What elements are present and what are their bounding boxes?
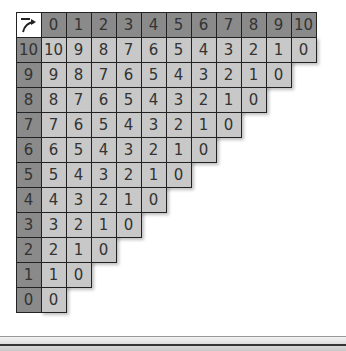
table-cell: 1 [41, 262, 67, 288]
table-cell: 0 [266, 62, 292, 88]
table-row: 10109876543210 [16, 37, 316, 62]
table-cell: 8 [41, 87, 67, 113]
table-cell: 0 [116, 212, 142, 238]
table-row: 00 [16, 287, 316, 312]
table-cell: 0 [166, 162, 192, 188]
table-cell: 2 [191, 87, 217, 113]
row-header: 10 [16, 37, 42, 63]
column-header: 3 [116, 12, 142, 38]
table-cell: 0 [66, 262, 92, 288]
column-header: 9 [266, 12, 292, 38]
table-row: 8876543210 [16, 87, 316, 112]
table-row: 33210 [16, 212, 316, 237]
table-cell: 3 [141, 112, 167, 138]
table-cell: 7 [66, 87, 92, 113]
table-cell: 1 [191, 112, 217, 138]
table-cell: 2 [166, 112, 192, 138]
table-cell: 0 [141, 187, 167, 213]
table-cell: 5 [166, 37, 192, 63]
table-cell: 0 [191, 137, 217, 163]
table-row: 2210 [16, 237, 316, 262]
table-cell: 4 [41, 187, 67, 213]
column-header: 1 [66, 12, 92, 38]
table-row: 776543210 [16, 112, 316, 137]
table-cell: 4 [141, 87, 167, 113]
row-header: 9 [16, 62, 42, 88]
table-cell: 0 [291, 37, 317, 63]
table-cell: 10 [41, 37, 67, 63]
column-header: 0 [41, 12, 67, 38]
row-header: 1 [16, 262, 42, 288]
table-cell: 6 [116, 62, 142, 88]
column-header: 2 [91, 12, 117, 38]
table-cell: 5 [141, 62, 167, 88]
column-header: 8 [241, 12, 267, 38]
row-header: 6 [16, 137, 42, 163]
table-cell: 3 [216, 37, 242, 63]
table-cell: 1 [241, 62, 267, 88]
table-cell: 6 [41, 137, 67, 163]
table-cell: 8 [91, 37, 117, 63]
row-header: 3 [16, 212, 42, 238]
column-header: 5 [166, 12, 192, 38]
table-cell: 0 [91, 237, 117, 263]
table-cell: 4 [66, 162, 92, 188]
table-cell: 9 [66, 37, 92, 63]
table-cell: 1 [166, 137, 192, 163]
table-cell: 4 [91, 137, 117, 163]
table-row: 110 [16, 262, 316, 287]
table-row: 443210 [16, 187, 316, 212]
table-cell: 2 [91, 187, 117, 213]
table-cell: 5 [116, 87, 142, 113]
row-header: 2 [16, 237, 42, 263]
table-cell: 6 [91, 87, 117, 113]
table-cell: 1 [141, 162, 167, 188]
table-cell: 4 [116, 112, 142, 138]
table-cell: 2 [66, 212, 92, 238]
table-cell: 2 [41, 237, 67, 263]
table-cell: 7 [41, 112, 67, 138]
table-cell: 2 [216, 62, 242, 88]
table-cell: 3 [166, 87, 192, 113]
column-header: 7 [216, 12, 242, 38]
table-cell: 3 [116, 137, 142, 163]
table-cell: 0 [41, 287, 67, 313]
table-cell: 8 [66, 62, 92, 88]
subtraction-table: 0123456789101010987654321099876543210887… [16, 12, 316, 312]
table-cell: 3 [191, 62, 217, 88]
table-cell: 3 [91, 162, 117, 188]
row-header: 7 [16, 112, 42, 138]
table-cell: 5 [41, 162, 67, 188]
header-row: 012345678910 [16, 12, 316, 37]
table-cell: 1 [266, 37, 292, 63]
table-cell: 7 [116, 37, 142, 63]
table-cell: 1 [216, 87, 242, 113]
table-cell: 5 [91, 112, 117, 138]
table-cell: 1 [91, 212, 117, 238]
table-cell: 3 [41, 212, 67, 238]
table-cell: 5 [66, 137, 92, 163]
table-cell: 1 [66, 237, 92, 263]
table-cell: 1 [116, 187, 142, 213]
table-row: 5543210 [16, 162, 316, 187]
table-cell: 6 [141, 37, 167, 63]
table-cell: 0 [216, 112, 242, 138]
column-header: 6 [191, 12, 217, 38]
row-header: 8 [16, 87, 42, 113]
table-cell: 7 [91, 62, 117, 88]
subtract-arrow-icon [16, 12, 42, 38]
table-cell: 2 [141, 137, 167, 163]
row-header: 5 [16, 162, 42, 188]
table-cell: 0 [241, 87, 267, 113]
table-cell: 4 [166, 62, 192, 88]
table-row: 66543210 [16, 137, 316, 162]
table-row: 99876543210 [16, 62, 316, 87]
table-cell: 3 [66, 187, 92, 213]
table-cell: 2 [241, 37, 267, 63]
table-cell: 6 [66, 112, 92, 138]
table-cell: 2 [116, 162, 142, 188]
row-header: 0 [16, 287, 42, 313]
column-header: 4 [141, 12, 167, 38]
bottom-divider [0, 336, 346, 351]
row-header: 4 [16, 187, 42, 213]
